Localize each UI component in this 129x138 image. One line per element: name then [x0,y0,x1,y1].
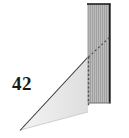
vertical-hatched-panel [88,4,111,103]
figure-canvas: 42 [0,0,129,138]
geometry-figure [0,0,129,138]
figure-number-label: 42 [12,74,32,93]
